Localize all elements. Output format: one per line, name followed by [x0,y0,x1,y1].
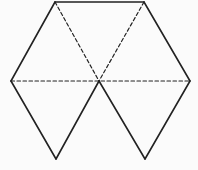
solid-edge-top_left-left [11,2,55,81]
dashed-edge-top_left-center [55,2,99,81]
solid-edge-bottom_left-center [56,81,99,159]
hexagon-net-diagram [0,0,198,170]
solid-edge-center-bottom_right [99,81,145,159]
dashed-edge-top_right-center [99,2,144,81]
solid-edge-top_right-right [144,2,190,81]
solid-edge-bottom_right-right [145,81,190,159]
solid-edge-left-bottom_left [11,81,56,159]
